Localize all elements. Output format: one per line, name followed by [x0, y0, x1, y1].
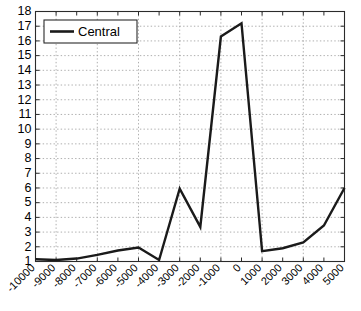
y-tick-label: 10 — [18, 122, 32, 136]
x-tick-label: 1000 — [238, 261, 264, 287]
x-tick-label: 0 — [230, 261, 243, 274]
data-series-group — [36, 23, 345, 260]
y-tick-label: 15 — [18, 48, 32, 62]
y-axis-tick-labels: 123456789101112131415161718 — [18, 4, 32, 268]
x-tick-label: 2000 — [258, 261, 284, 287]
y-tick-label: 11 — [19, 107, 32, 121]
y-tick-label: 14 — [18, 63, 32, 77]
y-tick-label: 2 — [25, 240, 32, 254]
y-tick-label: 16 — [18, 34, 32, 48]
y-tick-label: 4 — [25, 210, 32, 224]
x-tick-label: 5000 — [320, 261, 346, 287]
y-tick-label: 9 — [25, 137, 32, 151]
y-tick-label: 5 — [25, 195, 32, 209]
y-tick-label: 17 — [18, 19, 32, 33]
plot-frame — [36, 12, 345, 262]
chart-container: 123456789101112131415161718 -10000-9000-… — [0, 0, 361, 311]
y-tick-label: 18 — [18, 4, 32, 18]
y-tick-label: 6 — [25, 181, 32, 195]
x-axis-tick-labels: -10000-9000-8000-7000-6000-5000-4000-300… — [4, 261, 346, 294]
x-tick-label: 3000 — [279, 261, 305, 287]
tick-marks — [36, 12, 345, 262]
series-line-central — [36, 23, 345, 260]
y-tick-label: 12 — [18, 93, 32, 107]
y-tick-label: 7 — [25, 166, 32, 180]
x-tick-label: -1000 — [194, 261, 222, 289]
grid-lines — [36, 12, 345, 262]
chart-legend: Central — [44, 20, 137, 43]
y-tick-label: 3 — [25, 225, 32, 239]
y-tick-label: 8 — [25, 151, 32, 165]
y-tick-label: 13 — [18, 78, 32, 92]
x-tick-label: 4000 — [300, 261, 326, 287]
line-chart: 123456789101112131415161718 -10000-9000-… — [0, 0, 361, 311]
legend-label-central: Central — [78, 24, 120, 39]
